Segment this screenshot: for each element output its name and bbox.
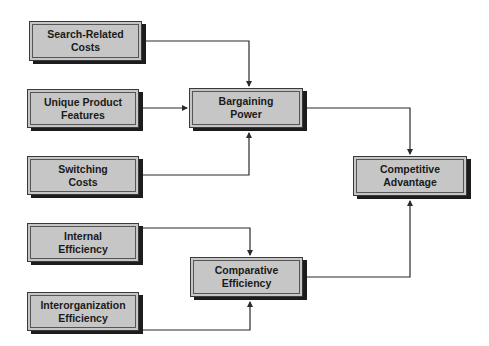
- node-switching-costs: Switching Costs: [27, 156, 139, 195]
- node-competitive-advantage: Competitive Advantage: [353, 156, 467, 196]
- node-bargaining-power: Bargaining Power: [189, 88, 303, 128]
- node-label: Switching Costs: [58, 163, 108, 189]
- node-comparative-efficiency: Comparative Efficiency: [190, 257, 303, 297]
- edge-internal-to-comparative: [143, 228, 250, 255]
- edge-comparative-to-competitive: [307, 201, 410, 277]
- edge-search-to-bargaining: [146, 41, 249, 86]
- node-label: Competitive Advantage: [380, 163, 440, 189]
- edge-interorg-to-comparative: [143, 302, 250, 330]
- edge-switching-to-bargaining: [143, 133, 249, 175]
- node-label: Comparative Efficiency: [215, 264, 279, 290]
- edge-bargaining-to-competitive: [307, 108, 410, 154]
- node-label: Internal Efficiency: [58, 230, 108, 256]
- node-search-related-costs: Search-Related Costs: [29, 21, 142, 61]
- node-interorganization-efficiency: Interorganization Efficiency: [27, 292, 139, 331]
- node-label: Bargaining Power: [219, 95, 274, 121]
- node-label: Unique Product Features: [44, 96, 122, 122]
- node-unique-product-features: Unique Product Features: [27, 89, 139, 128]
- diagram-canvas: Search-Related Costs Unique Product Feat…: [0, 0, 489, 346]
- node-label: Interorganization Efficiency: [40, 299, 125, 325]
- node-label: Search-Related Costs: [47, 28, 123, 54]
- node-internal-efficiency: Internal Efficiency: [27, 223, 139, 262]
